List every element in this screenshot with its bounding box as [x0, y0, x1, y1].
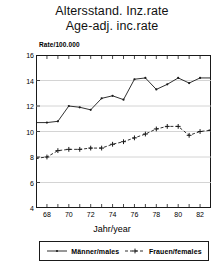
data-point-marker — [57, 120, 59, 122]
data-point-marker — [110, 142, 115, 147]
x-tick-label: 78 — [152, 211, 160, 218]
data-point-marker — [133, 78, 135, 80]
y-tick-label: 12 — [26, 103, 34, 110]
plot-area — [36, 55, 211, 208]
data-point-marker — [46, 121, 48, 123]
chart-figure: Altersstand. Inz.rate Age-adj. inc.rate … — [0, 0, 224, 266]
x-tick-label: 74 — [109, 211, 117, 218]
legend-solid-line-icon — [46, 247, 68, 255]
data-point-marker — [66, 147, 71, 152]
data-point-marker — [36, 121, 37, 123]
chart-title: Altersstand. Inz.rate Age-adj. inc.rate — [0, 4, 224, 34]
y-tick-label: 8 — [30, 154, 34, 161]
data-point-marker — [165, 124, 170, 129]
x-tick-label: 72 — [87, 211, 95, 218]
x-tick-label: 76 — [131, 211, 139, 218]
data-point-marker — [188, 82, 190, 84]
legend-label: Frauen/females — [149, 248, 202, 255]
legend-label: Männer/males — [71, 248, 119, 255]
y-tick-label: 14 — [26, 77, 34, 84]
legend-dashed-plus-icon — [124, 247, 146, 255]
data-point-marker — [122, 99, 124, 101]
data-point-marker — [111, 95, 113, 97]
x-tick-label: 80 — [174, 211, 182, 218]
chart-legend: Männer/malesFrauen/females — [39, 241, 209, 261]
data-point-marker — [144, 77, 146, 79]
data-point-marker — [77, 147, 82, 152]
data-point-marker — [132, 135, 137, 140]
data-point-marker — [210, 77, 211, 79]
chart-title-line-de: Altersstand. Inz.rate — [0, 4, 224, 19]
legend-item-1: Männer/males — [46, 247, 119, 255]
plot-canvas — [36, 55, 211, 208]
x-axis-title: Jahr/year — [0, 224, 224, 234]
data-point-marker — [155, 88, 157, 90]
data-point-marker — [132, 249, 137, 254]
x-tick-label: 82 — [196, 211, 204, 218]
y-axis-tick-labels: 16141210864 — [16, 55, 34, 208]
y-axis-caption: Rate/100.000 — [39, 41, 80, 48]
data-point-marker — [99, 146, 104, 151]
data-point-marker — [198, 129, 203, 134]
y-tick-label: 16 — [26, 52, 34, 59]
data-point-marker — [209, 128, 211, 133]
chart-title-line-en: Age-adj. inc.rate — [0, 19, 224, 34]
data-point-marker — [121, 139, 126, 144]
data-point-marker — [187, 133, 192, 138]
x-axis-tick-labels: 6870727476788082 — [36, 211, 211, 223]
data-point-marker — [88, 146, 93, 151]
data-point-marker — [154, 127, 159, 132]
x-tick-label: 68 — [43, 211, 51, 218]
data-point-marker — [90, 109, 92, 111]
data-point-marker — [79, 106, 81, 108]
data-point-marker — [36, 156, 38, 161]
data-point-marker — [68, 105, 70, 107]
data-point-marker — [166, 83, 168, 85]
y-tick-label: 4 — [30, 205, 34, 212]
legend-item-2: Frauen/females — [124, 247, 202, 255]
y-tick-label: 10 — [26, 128, 34, 135]
data-point-marker — [101, 97, 103, 99]
data-point-marker — [143, 132, 148, 137]
y-tick-label: 6 — [30, 179, 34, 186]
x-tick-label: 70 — [65, 211, 73, 218]
data-point-marker — [199, 77, 201, 79]
data-point-marker — [177, 77, 179, 79]
data-point-marker — [45, 155, 50, 160]
data-point-marker — [55, 148, 60, 153]
